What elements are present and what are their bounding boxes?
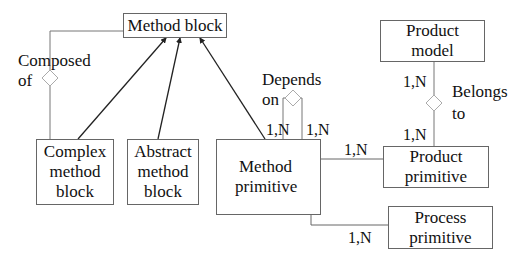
relationship-label-line: to	[452, 103, 508, 125]
relationship-label-belongs-to: Belongs to	[452, 81, 508, 125]
entity-label-line: method	[138, 162, 189, 182]
cardinality-depends-on-left: 1,N	[266, 121, 290, 139]
entity-label-line: Process	[415, 208, 467, 228]
belongs-to-connector	[426, 61, 442, 146]
cardinality-product-primitive-link: 1,N	[344, 141, 368, 159]
inheritance-arrows	[78, 38, 265, 139]
relationship-label-line: Belongs	[452, 81, 508, 103]
entity-product-primitive: Product primitive	[383, 146, 489, 188]
entity-process-primitive: Process primitive	[388, 206, 493, 249]
cardinality-belongs-to-top: 1,N	[403, 73, 427, 91]
relationship-label-depends-on: Depends on	[262, 70, 321, 110]
entity-label: Method block	[128, 16, 223, 36]
entity-label-line: primitive	[409, 228, 471, 248]
entity-complex-method-block: Complex method block	[36, 139, 114, 205]
relationship-label-line: of	[18, 71, 91, 91]
entity-label-line: Method	[235, 157, 292, 177]
cardinality-depends-on-right: 1,N	[306, 121, 330, 139]
entity-label-line: primitive	[405, 167, 467, 187]
entity-label-line: Abstract	[134, 142, 192, 162]
entity-label-line: method	[50, 162, 101, 182]
relationship-label-line: on	[262, 90, 321, 110]
entity-product-model: Product model	[380, 20, 485, 62]
cardinality-belongs-to-bottom: 1,N	[403, 126, 427, 144]
entity-method-block: Method block	[123, 13, 227, 38]
relationship-label-line: Composed	[18, 51, 91, 71]
entity-label-line: block	[56, 182, 94, 202]
entity-label-line: Product	[410, 147, 463, 167]
diagram-canvas: Method block Complex method block Abstra…	[0, 0, 529, 266]
entity-label-line: Complex	[44, 142, 106, 162]
relationship-label-line: Depends	[262, 70, 321, 90]
entity-label-line: block	[144, 182, 182, 202]
entity-abstract-method-block: Abstract method block	[127, 139, 199, 205]
entity-label-line: primitive	[235, 177, 297, 197]
entity-label-line: model	[411, 41, 454, 61]
cardinality-process-primitive-link: 1,N	[348, 229, 372, 247]
entity-method-primitive: Method primitive	[216, 139, 321, 215]
entity-label-line: Product	[406, 21, 459, 41]
belongs-to-diamond-icon	[426, 95, 442, 111]
relationship-label-composed-of: Composed of	[18, 51, 91, 91]
